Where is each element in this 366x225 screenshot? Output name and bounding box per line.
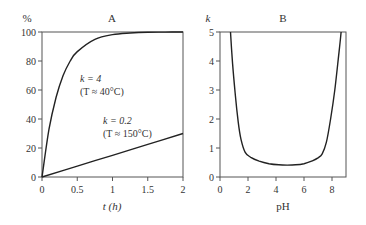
panel-b-frame	[220, 32, 346, 177]
svg-text:6: 6	[302, 184, 307, 195]
annotation-k0.2: k = 0.2	[103, 115, 132, 126]
svg-text:0: 0	[209, 172, 214, 183]
svg-text:2: 2	[209, 114, 214, 125]
svg-text:0: 0	[218, 184, 223, 195]
svg-text:8: 8	[330, 184, 335, 195]
panel-b-ylabel: k	[206, 12, 212, 24]
svg-text:0: 0	[31, 172, 36, 183]
svg-text:0: 0	[40, 184, 45, 195]
annotation-k0.2-temp: (T ≈ 150°C)	[103, 128, 152, 140]
svg-text:2: 2	[246, 184, 251, 195]
svg-text:0.5: 0.5	[71, 184, 84, 195]
svg-text:1.5: 1.5	[142, 184, 155, 195]
svg-text:100: 100	[21, 27, 36, 38]
panel-b-x-ticks: 02468	[218, 177, 335, 195]
panel-b-xlabel: pH	[276, 200, 290, 212]
svg-text:3: 3	[209, 85, 214, 96]
svg-text:20: 20	[26, 143, 36, 154]
svg-text:5: 5	[209, 27, 214, 38]
panel-a-ylabel: %	[22, 12, 31, 24]
svg-text:1: 1	[110, 184, 115, 195]
panel-a-series-k0.2	[42, 134, 183, 178]
svg-text:80: 80	[26, 56, 36, 67]
svg-text:40: 40	[26, 114, 36, 125]
chart-figure: A % 020406080100 00.511.52 k = 4 (T ≈ 40…	[0, 0, 366, 225]
panel-b-title: B	[279, 12, 286, 24]
annotation-k4-temp: (T ≈ 40°C)	[80, 86, 124, 98]
panel-b-series-k-vs-ph	[231, 32, 342, 165]
svg-text:4: 4	[209, 56, 214, 67]
annotation-k4: k = 4	[80, 73, 101, 84]
svg-text:60: 60	[26, 85, 36, 96]
panel-a-title: A	[108, 12, 116, 24]
panel-a-y-ticks: 020406080100	[21, 27, 42, 183]
panel-a-x-ticks: 00.511.52	[40, 177, 186, 195]
panel-a: A % 020406080100 00.511.52 k = 4 (T ≈ 40…	[21, 12, 186, 213]
panel-b: B k 012345 02468 pH	[206, 12, 346, 212]
svg-text:4: 4	[274, 184, 279, 195]
panel-a-xlabel: t (h)	[103, 200, 122, 213]
panel-b-y-ticks: 012345	[209, 27, 220, 183]
svg-text:1: 1	[209, 143, 214, 154]
svg-text:2: 2	[181, 184, 186, 195]
